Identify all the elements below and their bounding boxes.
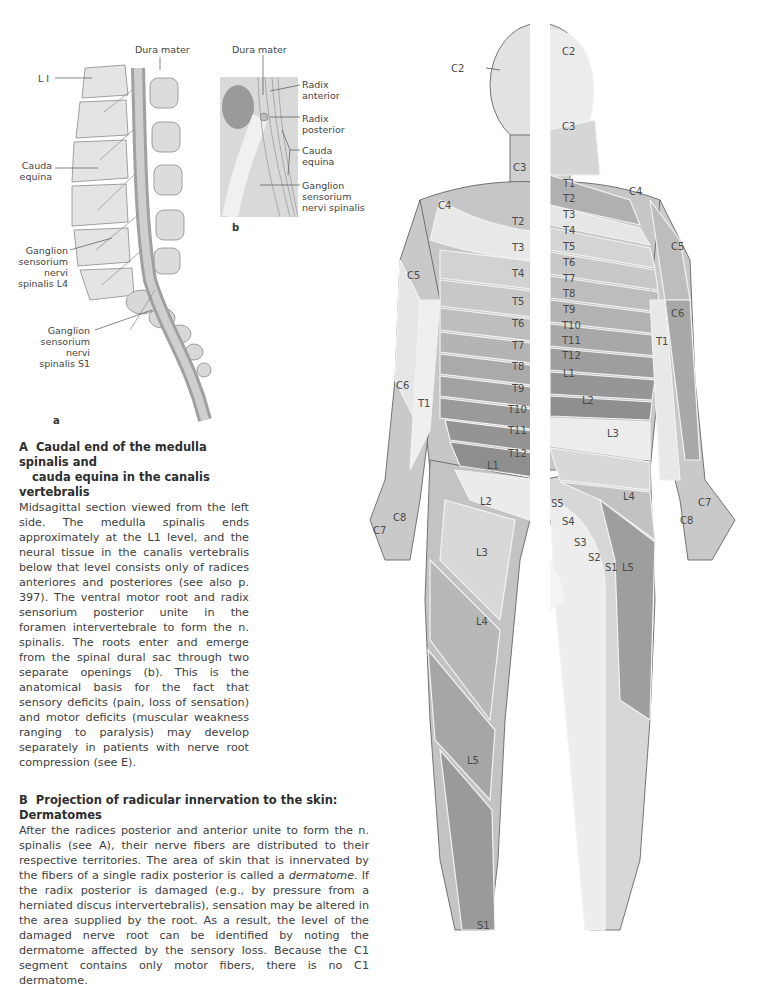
label-dura-mater-b: Dura mater	[232, 44, 287, 55]
dermatome-label-front-t11: T11	[508, 425, 527, 436]
dermatome-label-back-l5: L5	[622, 562, 634, 573]
dermatome-label-front-l5: L5	[467, 755, 479, 766]
dermatome-label-back-t5: T5	[563, 241, 575, 252]
caption-title-line: Caudal end of the medulla spinalis and	[19, 440, 207, 469]
label-line: Ganglion	[28, 325, 90, 336]
dermatome-label-front-c4: C4	[438, 200, 451, 211]
label-line: sensorium	[28, 336, 90, 347]
dermatome-label-back-s1: S1	[605, 562, 618, 573]
label-radix-anterior: Radix anterior	[302, 79, 340, 101]
dermatome-label-front-c5: C5	[407, 270, 420, 281]
label-line: sensorium	[4, 256, 68, 267]
dermatome-label-front-c7: C7	[373, 525, 386, 536]
dermatome-label-back-c7: C7	[698, 497, 711, 508]
dermatome-label-front-c6: C6	[396, 380, 409, 391]
dermatome-label-back-s3: S3	[574, 537, 587, 548]
dermatome-label-back-t1b: T1	[656, 336, 668, 347]
label-line: spinalis S1	[28, 358, 90, 369]
caption-b-body: After the radices posterior and anterior…	[19, 823, 369, 988]
figure-letter-b: b	[232, 222, 239, 233]
dermatome-label-front-t3: T3	[512, 242, 524, 253]
dermatome-label-front-t2: T2	[512, 216, 524, 227]
caption-title-line: Projection of radicular innervation to t…	[19, 793, 337, 822]
dermatome-label-back-t10: T10	[562, 320, 581, 331]
dermatome-label-back-s2: S2	[588, 552, 601, 563]
caption-letter: B	[19, 793, 28, 807]
label-line: Cauda	[302, 145, 334, 156]
label-line: spinalis L4	[4, 278, 68, 289]
dermatome-label-back-t8: T8	[563, 288, 575, 299]
label-line: anterior	[302, 90, 340, 101]
dermatome-label-front-l3: L3	[476, 547, 488, 558]
label-cauda-equina-a: Cauda equina	[16, 160, 52, 182]
label-line: equina	[302, 156, 334, 167]
label-line: equina	[16, 171, 52, 182]
dermatome-label-front-t12: T12	[508, 448, 527, 459]
dermatome-label-back-t2: T2	[563, 193, 575, 204]
label-line: Cauda	[16, 160, 52, 171]
dermatome-label-front-s1: S1	[477, 920, 490, 931]
dermatome-label-front-t6: T6	[512, 318, 524, 329]
dermatome-label-back-l3: L3	[607, 428, 619, 439]
dermatome-label-back-l4: L4	[623, 491, 635, 502]
caption-b: B Projection of radicular innervation to…	[19, 793, 369, 988]
dermatome-label-front-t1: T1	[418, 398, 430, 409]
dermatome-label-front-t9: T9	[512, 383, 524, 394]
dermatome-label-back-c4: C4	[629, 186, 642, 197]
dermatome-label-front-t8: T8	[512, 361, 524, 372]
dermatome-label-back-t3: T3	[563, 209, 575, 220]
dermatome-label-front-t10: T10	[508, 404, 527, 415]
dermatome-label-back-l2: L2	[582, 395, 594, 406]
dermatome-label-back-c6: C6	[671, 308, 684, 319]
dermatome-label-front-t4: T4	[512, 268, 524, 279]
dermatome-label-back-t6: T6	[563, 257, 575, 268]
label-line: Radix	[302, 79, 340, 90]
figure-letter-a: a	[53, 415, 60, 426]
dermatome-label-front-l4: L4	[476, 616, 488, 627]
caption-a-title: A Caudal end of the medulla spinalis and…	[19, 440, 249, 500]
dermatome-label-back-t12: T12	[562, 350, 581, 361]
dermatome-label-front-t5: T5	[512, 296, 524, 307]
dermatome-label-back-c5: C5	[671, 241, 684, 252]
caption-letter: A	[19, 440, 28, 454]
dermatome-label-back-l1: L1	[563, 368, 575, 379]
label-line: posterior	[302, 124, 345, 135]
dermatome-label-back-c8: C8	[680, 515, 693, 526]
caption-term: dermatome	[289, 869, 354, 882]
caption-text: . If the radix posterior is damaged (e.g…	[19, 869, 369, 987]
caption-a-body: Midsagittal section viewed from the left…	[19, 500, 249, 770]
dermatome-label-front-c8: C8	[393, 512, 406, 523]
dermatome-label-back-c2: C2	[562, 46, 575, 57]
dermatome-label-back-s5: S5	[551, 498, 564, 509]
label-line: nervi	[4, 267, 68, 278]
label-l1: L I	[38, 73, 49, 84]
label-dura-mater-a: Dura mater	[135, 44, 190, 55]
label-radix-posterior: Radix posterior	[302, 113, 345, 135]
dermatome-label-back-s4: S4	[562, 516, 575, 527]
label-ganglion-l4: Ganglion sensorium nervi spinalis L4	[4, 245, 68, 289]
dermatome-label-back-t1: T1	[563, 178, 575, 189]
caption-b-title: B Projection of radicular innervation to…	[19, 793, 369, 823]
dermatome-label-back-t7: T7	[563, 273, 575, 284]
label-line: Radix	[302, 113, 345, 124]
dermatome-label-front-c2: C2	[451, 63, 464, 74]
dermatome-label-front-t7: T7	[512, 340, 524, 351]
dermatome-label-front-l2: L2	[480, 496, 492, 507]
dermatome-label-back-t9: T9	[563, 304, 575, 315]
label-ganglion-s1: Ganglion sensorium nervi spinalis S1	[28, 325, 90, 369]
dermatome-label-back-t4: T4	[563, 225, 575, 236]
dermatome-label-back-t11: T11	[562, 335, 581, 346]
caption-a: A Caudal end of the medulla spinalis and…	[19, 440, 249, 770]
dermatome-label-front-l1: L1	[487, 460, 499, 471]
label-cauda-equina-b: Cauda equina	[302, 145, 334, 167]
dermatome-label-front-c3: C3	[513, 162, 526, 173]
caption-title-line: cauda equina in the canalis vertebralis	[19, 470, 210, 499]
label-line: nervi	[28, 347, 90, 358]
label-line: Ganglion	[4, 245, 68, 256]
dermatome-body-illustration	[355, 0, 755, 937]
dermatome-label-back-c3: C3	[562, 121, 575, 132]
